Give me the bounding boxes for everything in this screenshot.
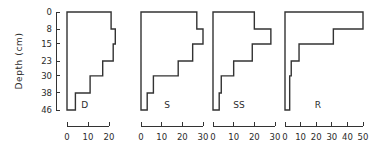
panel-label: R	[315, 100, 321, 110]
y-axis: 081523303846Depth (cm)	[14, 7, 60, 115]
profile-outline	[285, 12, 363, 110]
x-axis-tick-label: 50	[358, 132, 369, 142]
x-axis-tick-label: 40	[342, 132, 353, 142]
y-axis-tick-label: 0	[47, 7, 52, 17]
panel-ss: 0102030SS	[210, 12, 280, 142]
x-axis-tick-label: 20	[104, 132, 115, 142]
x-axis-tick-label: 10	[295, 132, 306, 142]
x-axis-tick-label: 20	[249, 132, 260, 142]
profile-outline	[67, 12, 115, 110]
panel-label: S	[164, 100, 170, 110]
panel-label: D	[81, 100, 88, 110]
x-axis-tick-label: 10	[156, 132, 167, 142]
y-axis-tick-label: 8	[47, 24, 52, 34]
panel-d: 01020D	[64, 12, 115, 142]
panel-s: 0102030S	[138, 12, 208, 142]
x-axis-tick-label: 10	[228, 132, 239, 142]
y-axis-tick-label: 30	[41, 71, 52, 81]
x-axis-tick-label: 0	[64, 132, 69, 142]
x-axis-tick-label: 30	[270, 132, 281, 142]
x-axis-tick-label: 10	[83, 132, 94, 142]
x-axis-tick-label: 0	[138, 132, 143, 142]
depth-profile-chart: 081523303846Depth (cm) 01020D0102030S010…	[0, 0, 372, 153]
x-axis-tick-label: 20	[177, 132, 188, 142]
y-axis-tick-label: 46	[41, 105, 52, 115]
y-axis-tick-label: 38	[41, 88, 52, 98]
panel-label: SS	[233, 100, 245, 110]
x-axis-tick-label: 30	[326, 132, 337, 142]
panels-group: 01020D0102030S0102030SS01020304050R	[64, 12, 368, 142]
profile-outline	[141, 12, 203, 110]
chart-figure: 081523303846Depth (cm) 01020D0102030S010…	[0, 0, 372, 153]
profile-outline	[213, 12, 271, 110]
y-axis-tick-label: 15	[41, 39, 52, 49]
x-axis-tick-label: 30	[198, 132, 209, 142]
x-axis-tick-label: 0	[210, 132, 215, 142]
y-axis-tick-label: 23	[41, 56, 52, 66]
x-axis-tick-label: 20	[311, 132, 322, 142]
y-axis-title: Depth (cm)	[14, 32, 24, 89]
x-axis-tick-label: 0	[282, 132, 287, 142]
panel-r: 01020304050R	[282, 12, 368, 142]
